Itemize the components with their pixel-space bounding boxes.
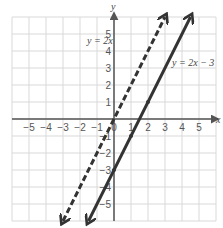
- line-label-y-2x-minus-3: y = 2x − 3: [171, 57, 214, 68]
- x-tick-label: 4: [179, 122, 185, 133]
- y-tick-label: −5: [100, 199, 112, 210]
- x-tick-label: 3: [162, 122, 168, 133]
- x-tick-label: −3: [57, 122, 69, 133]
- data-point: [129, 134, 133, 138]
- x-tick-label: 2: [145, 122, 151, 133]
- data-point: [112, 168, 116, 172]
- x-axis-label: x: [215, 114, 221, 125]
- x-tick-label: −2: [74, 122, 86, 133]
- data-point: [146, 100, 150, 104]
- line-label-y-2x: y = 2x: [86, 35, 113, 46]
- coordinate-plane: −5−4−3−2−1012345−5−4−3−2−112345 y = 2x y…: [0, 0, 223, 228]
- y-tick-label: 3: [105, 63, 111, 74]
- axes: [12, 13, 218, 221]
- y-axis-label: y: [110, 1, 116, 12]
- y-tick-label: −3: [100, 165, 112, 176]
- x-tick-label: 5: [196, 122, 202, 133]
- x-tick-label: −5: [23, 122, 35, 133]
- y-tick-label: 1: [105, 97, 111, 108]
- x-tick-label: −4: [40, 122, 52, 133]
- y-tick-label: −2: [100, 148, 112, 159]
- y-tick-label: 4: [105, 46, 111, 57]
- y-tick-label: 2: [105, 80, 111, 91]
